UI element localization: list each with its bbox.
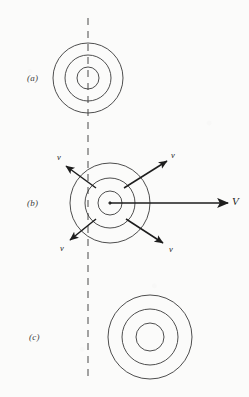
wavefront-c-inner — [136, 323, 164, 351]
wave-speed-arrow-lower-left — [70, 219, 96, 240]
wavefront-c-outer — [108, 295, 192, 379]
wavefront-diagram: (a) (b) (c) v v v v V — [0, 0, 249, 397]
panel-label-a: (a) — [27, 73, 38, 83]
wave-speed-label-lower-right: v — [169, 244, 173, 254]
wave-speed-label-upper-left: v — [57, 152, 61, 162]
wave-speed-label-upper-right: v — [171, 150, 175, 160]
panel-label-c: (c) — [29, 332, 40, 342]
wavefronts-panel-c — [108, 295, 192, 379]
wave-speed-label-lower-left: v — [60, 243, 64, 253]
panel-label-b: (b) — [27, 198, 38, 208]
wavefront-c-middle — [122, 309, 178, 365]
source-velocity-label: V — [232, 195, 239, 207]
velocity-vectors-panel-b — [66, 161, 228, 243]
wave-speed-arrow-upper-left — [66, 166, 96, 188]
